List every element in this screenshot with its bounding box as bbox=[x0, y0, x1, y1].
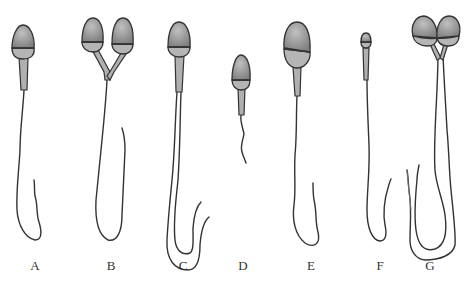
sperm-f-small-head bbox=[361, 33, 391, 241]
label-g: G bbox=[425, 258, 434, 274]
sperm-c-double-tail bbox=[167, 22, 209, 270]
label-d: D bbox=[238, 258, 247, 274]
sperm-morphology-figure bbox=[0, 0, 469, 282]
sperm-e-large-head bbox=[284, 22, 319, 245]
label-b: B bbox=[107, 258, 116, 274]
sperm-g-double-head-double-tail bbox=[407, 16, 460, 260]
label-f: F bbox=[376, 258, 383, 274]
sperm-d-short-tail bbox=[232, 55, 250, 163]
sperm-a-normal bbox=[12, 25, 41, 240]
label-e: E bbox=[307, 258, 315, 274]
label-c: C bbox=[179, 258, 188, 274]
label-a: A bbox=[30, 258, 39, 274]
sperm-b-double-head bbox=[82, 18, 133, 240]
